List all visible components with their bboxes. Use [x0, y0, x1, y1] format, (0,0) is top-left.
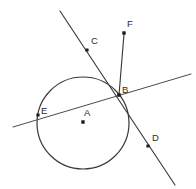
secant-line-e-b [13, 74, 191, 127]
geometry-figure: A B C D E F [0, 0, 196, 189]
point-dot-d [146, 144, 149, 147]
point-label-c: C [91, 35, 98, 46]
point-label-d: D [152, 132, 159, 143]
point-label-b: B [122, 84, 128, 95]
line-c-b-d [60, 11, 175, 185]
geometry-canvas: A B C D E F [0, 0, 196, 189]
point-label-f: F [127, 18, 133, 29]
point-dot-a [81, 120, 84, 123]
point-dot-e [36, 113, 39, 116]
point-dot-b [117, 93, 121, 97]
point-dot-f [122, 31, 125, 34]
point-dot-c [85, 48, 88, 51]
point-label-a: A [84, 107, 91, 118]
point-label-e: E [41, 105, 47, 116]
